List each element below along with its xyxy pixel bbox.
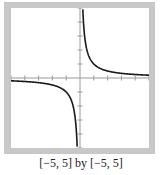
curve-left-branch [11,81,77,147]
curve-right-branch [83,9,149,75]
hyperbola-chart [11,8,149,148]
plot-area [11,8,149,148]
window-caption: [−5, 5] by [−5, 5] [0,156,162,171]
